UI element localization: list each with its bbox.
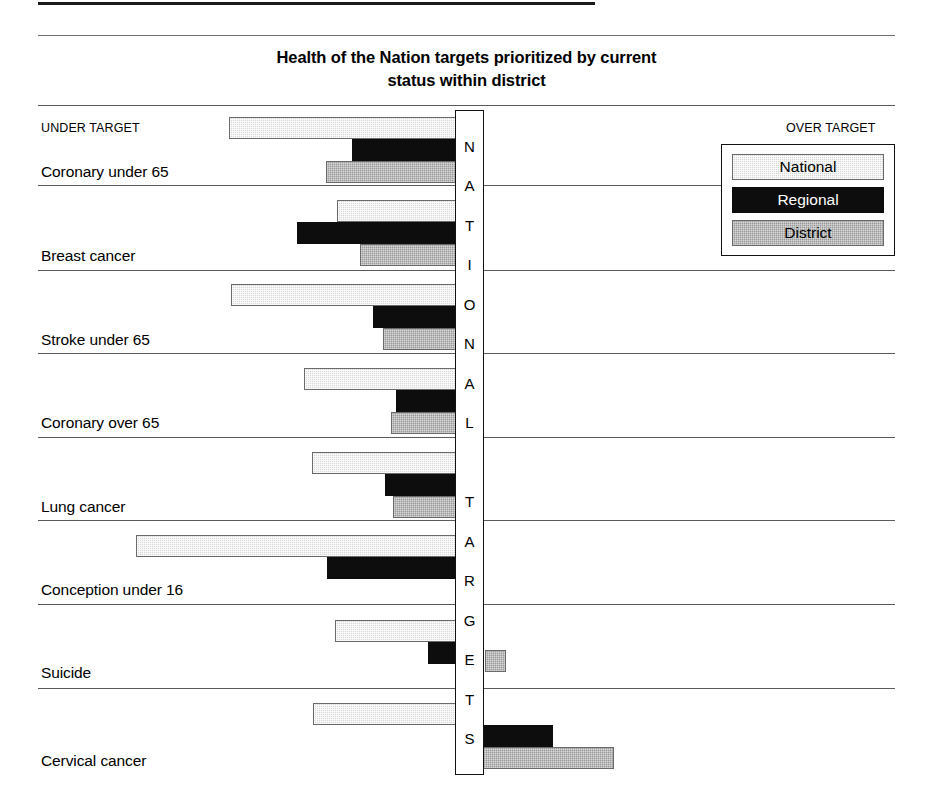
bar-national-row-5 xyxy=(312,452,461,474)
axis-letter-2: A xyxy=(464,178,474,193)
chart-plot-area: UNDER TARGET OVER TARGET Coronary under … xyxy=(0,0,931,812)
axis-letter-4: I xyxy=(467,257,471,272)
row-label-7: Suicide xyxy=(41,664,91,682)
bar-regional-row-2 xyxy=(297,222,461,244)
bar-regional-row-6 xyxy=(327,557,461,579)
bar-regional-row-8 xyxy=(478,725,553,747)
bar-district-row-2 xyxy=(360,244,461,266)
row-label-1: Coronary under 65 xyxy=(41,163,169,181)
bar-national-row-6 xyxy=(136,535,461,557)
row-label-4: Coronary over 65 xyxy=(41,414,159,432)
axis-letter-13: G xyxy=(464,613,476,628)
chart-page: Health of the Nation targets prioritized… xyxy=(0,0,931,812)
bar-regional-row-4 xyxy=(396,390,461,412)
axis-letter-8: L xyxy=(465,415,473,430)
bar-national-row-3 xyxy=(231,284,461,306)
bar-national-row-4 xyxy=(304,368,461,390)
legend-label-national: National xyxy=(780,158,837,176)
axis-letter-5: O xyxy=(464,297,476,312)
bar-national-row-7 xyxy=(335,620,461,642)
row-label-2: Breast cancer xyxy=(41,247,135,265)
chart-legend: NationalRegionalDistrict xyxy=(721,144,895,256)
over-target-caption: OVER TARGET xyxy=(786,121,876,135)
legend-label-district: District xyxy=(784,224,831,242)
axis-letter-16: S xyxy=(464,731,474,746)
bar-regional-row-1 xyxy=(352,139,461,161)
row-label-8: Cervical cancer xyxy=(41,752,146,770)
bar-regional-row-5 xyxy=(385,474,461,496)
row-label-5: Lung cancer xyxy=(41,498,125,516)
bar-district-row-7 xyxy=(485,650,506,672)
bar-national-row-8 xyxy=(313,703,461,725)
axis-letter-6: N xyxy=(464,336,475,351)
row-label-6: Conception under 16 xyxy=(41,581,183,599)
bar-national-row-2 xyxy=(337,200,461,222)
national-targets-axis: NATIONAL TARGETS xyxy=(455,110,484,775)
under-target-caption: UNDER TARGET xyxy=(41,121,140,135)
axis-letter-11: A xyxy=(464,534,474,549)
bar-regional-row-3 xyxy=(373,306,461,328)
axis-letter-15: T xyxy=(465,692,474,707)
axis-letter-10: T xyxy=(465,494,474,509)
legend-item-national[interactable]: National xyxy=(732,154,884,180)
bar-district-row-3 xyxy=(383,328,461,350)
axis-letter-3: T xyxy=(465,218,474,233)
axis-letter-7: A xyxy=(464,376,474,391)
bar-district-row-5 xyxy=(393,496,461,518)
bar-district-row-8 xyxy=(478,747,614,769)
bar-national-row-1 xyxy=(229,117,461,139)
axis-letter-1: N xyxy=(464,139,475,154)
legend-item-district[interactable]: District xyxy=(732,220,884,246)
legend-label-regional: Regional xyxy=(777,191,838,209)
axis-letter-9 xyxy=(467,455,471,470)
row-label-3: Stroke under 65 xyxy=(41,331,150,349)
axis-letter-12: R xyxy=(464,573,475,588)
bar-district-row-1 xyxy=(326,161,461,183)
row-separator-1 xyxy=(38,105,895,106)
legend-item-regional[interactable]: Regional xyxy=(732,187,884,213)
bar-district-row-4 xyxy=(391,412,461,434)
axis-letter-14: E xyxy=(464,652,474,667)
